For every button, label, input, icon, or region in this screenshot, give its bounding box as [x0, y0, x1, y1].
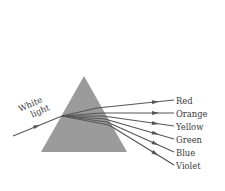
- label-green: Green: [176, 135, 203, 145]
- label-yellow: Yellow: [175, 122, 204, 132]
- arrow-icon: [152, 111, 159, 115]
- label-violet: Violet: [175, 161, 201, 171]
- arrow-icon: [151, 150, 158, 155]
- arrow-icon: [151, 140, 158, 145]
- arrow-icon: [152, 131, 159, 135]
- label-red: Red: [176, 96, 193, 106]
- arrow-icon: [152, 121, 159, 125]
- white-light-label: White light: [17, 93, 52, 123]
- prism-dispersion-diagram: White light RedOrangeYellowGreenBlueViol…: [0, 0, 225, 191]
- arrow-icon: [33, 125, 40, 129]
- arrow-icon: [152, 100, 159, 104]
- label-orange: Orange: [176, 109, 208, 119]
- spectrum-labels: RedOrangeYellowGreenBlueViolet: [175, 96, 208, 171]
- ray-red: [97, 100, 174, 108]
- label-blue: Blue: [176, 148, 195, 158]
